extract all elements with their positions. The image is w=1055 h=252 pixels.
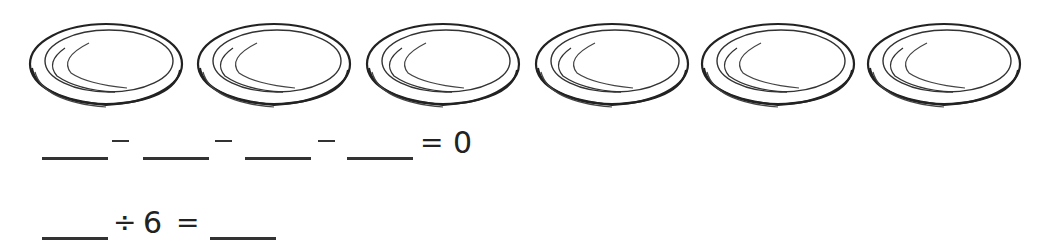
divisor-value: 6 — [143, 208, 162, 238]
divide-sign: ÷ — [113, 209, 136, 237]
answer-blank-2[interactable] — [143, 157, 209, 160]
answer-blank-4[interactable] — [347, 157, 413, 160]
dividend-blank[interactable] — [42, 237, 108, 240]
result-value: 0 — [453, 128, 472, 158]
minus-sign — [215, 140, 232, 142]
subtraction-equation: = 0 — [0, 120, 600, 160]
plate-icon — [699, 18, 857, 108]
division-equation: ÷ 6 = — [0, 200, 600, 240]
equals-sign: = — [420, 129, 443, 157]
answer-blank-1[interactable] — [42, 157, 108, 160]
plate-icon — [27, 18, 185, 108]
minus-sign — [112, 140, 129, 142]
equals-sign: = — [176, 209, 199, 237]
plate-icon — [195, 18, 353, 108]
quotient-blank[interactable] — [210, 237, 276, 240]
minus-sign — [318, 140, 335, 142]
plates-row — [0, 0, 1055, 120]
plate-icon — [533, 18, 691, 108]
plate-icon — [865, 18, 1023, 108]
answer-blank-3[interactable] — [245, 157, 311, 160]
plate-icon — [364, 18, 522, 108]
